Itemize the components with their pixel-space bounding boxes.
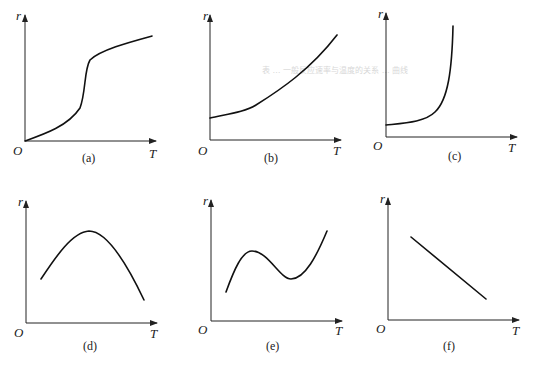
- reaction-rate-temperature-figure: 表 … 一般反应速率与温度的关系 … 曲线 r T O (a) r T O (b…: [0, 0, 535, 368]
- y-axis-label: r: [380, 191, 386, 206]
- y-axis-label: r: [16, 8, 22, 23]
- x-axis-label: T: [508, 140, 516, 155]
- x-axis-label: T: [150, 326, 158, 341]
- origin-label: O: [376, 321, 386, 336]
- panel-caption: (c): [448, 149, 461, 163]
- rate-curve: [41, 231, 144, 300]
- panel-f: r T O (f): [376, 191, 520, 353]
- y-axis-label: r: [203, 193, 209, 208]
- origin-label: O: [198, 143, 208, 158]
- panel-e: r T O (e): [198, 193, 343, 353]
- panel-caption: (f): [443, 339, 455, 353]
- rate-curve: [25, 36, 152, 141]
- origin-label: O: [373, 138, 383, 153]
- origin-label: O: [198, 322, 208, 337]
- x-axis-label: T: [335, 323, 343, 338]
- y-axis-label: r: [378, 6, 384, 21]
- rate-curve: [210, 35, 337, 118]
- origin-label: O: [14, 325, 24, 340]
- panel-caption: (d): [83, 339, 97, 353]
- y-axis-label: r: [18, 194, 24, 209]
- x-axis-label: T: [333, 143, 341, 158]
- panel-a: r T O (a): [13, 8, 157, 165]
- panel-b: r T O (b): [198, 8, 341, 165]
- x-axis-label: T: [149, 146, 157, 161]
- panel-c: r T O (c): [373, 6, 517, 163]
- rate-curve: [386, 26, 453, 125]
- rate-line: [411, 237, 486, 299]
- panel-caption: (e): [266, 339, 279, 353]
- rate-curve: [226, 231, 327, 292]
- y-axis-label: r: [203, 8, 209, 23]
- panel-d: r T O (d): [14, 194, 158, 353]
- origin-label: O: [13, 143, 23, 158]
- x-axis-label: T: [512, 323, 520, 338]
- panel-caption: (b): [264, 151, 278, 165]
- panel-caption: (a): [82, 151, 95, 165]
